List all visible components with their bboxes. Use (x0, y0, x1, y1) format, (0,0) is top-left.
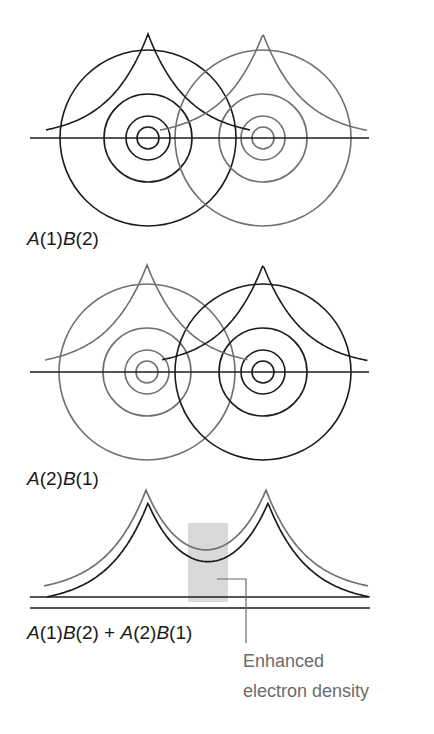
annotation-line-1: Enhanced (243, 646, 369, 676)
annotation-line-2: electron density (243, 676, 369, 706)
wavefunction-A-curve (45, 265, 248, 360)
panel-a2b1-diagram (30, 265, 369, 460)
enhanced-density-annotation: Enhanced electron density (243, 646, 369, 706)
wavefunction-B-curve (162, 266, 368, 360)
panel-combined-diagram (30, 490, 370, 643)
label-combined: A(1)B(2) + A(2)B(1) (27, 623, 192, 642)
label-a2b1: A(2)B(1) (27, 469, 99, 488)
panel-a1b2-diagram (30, 34, 369, 226)
label-a1b2: A(1)B(2) (27, 229, 99, 248)
